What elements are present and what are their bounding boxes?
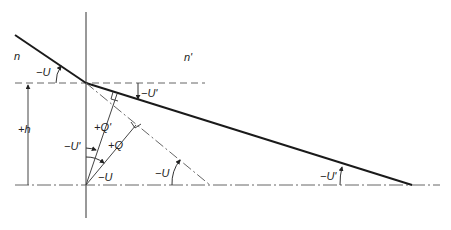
medium-n-prime-label: n' — [184, 51, 193, 63]
refraction-diagram: n n' −U −U' +h +Q' +Q −U' −U −U −U' — [0, 0, 451, 230]
medium-n-label: n — [14, 50, 20, 62]
height-label: +h — [18, 123, 31, 135]
angle-arc-u-dashed — [172, 160, 180, 185]
u-prime-origin-label: −U' — [64, 140, 81, 152]
refracted-ray — [86, 83, 412, 185]
q-label: +Q — [108, 139, 123, 151]
incident-angle-label: −U — [36, 66, 50, 78]
u-prime-axis-label: −U' — [320, 170, 337, 182]
angle-arc-u-prime-origin — [86, 148, 96, 150]
incident-ray — [15, 35, 86, 83]
u-origin-label: −U — [98, 171, 112, 183]
angle-arc-u-prime-axis — [340, 167, 342, 185]
q-prime-label: +Q' — [94, 121, 112, 133]
angle-arc-incident — [56, 66, 61, 83]
refracted-angle-label: −U' — [141, 87, 158, 99]
u-dashed-label: −U — [155, 167, 169, 179]
